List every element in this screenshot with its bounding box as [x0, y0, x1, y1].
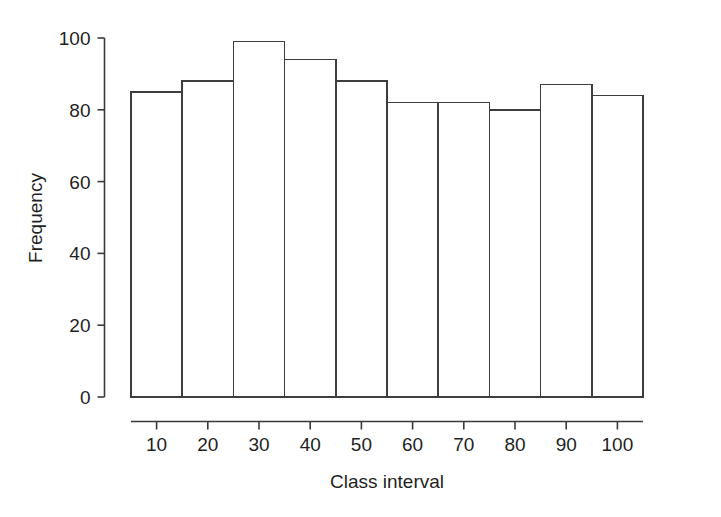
x-tick-label: 50 [351, 434, 372, 455]
x-tick-label: 70 [453, 434, 474, 455]
x-tick-label: 20 [197, 434, 218, 455]
x-tick-label: 40 [300, 434, 321, 455]
y-tick-label: 20 [69, 315, 90, 336]
bar [131, 92, 182, 397]
x-tick-label: 100 [602, 434, 634, 455]
x-tick-label: 60 [402, 434, 423, 455]
y-tick-label: 60 [69, 172, 90, 193]
y-axis-title: Frequency [25, 173, 46, 263]
bar [489, 110, 540, 397]
chart-figure: 020406080100 Frequency 10203040506070809… [0, 0, 721, 517]
bar [541, 85, 592, 397]
bar [285, 60, 336, 397]
x-tick-label: 10 [146, 434, 167, 455]
x-tick-label: 30 [248, 434, 269, 455]
y-tick-label: 0 [80, 387, 91, 408]
y-tick-label: 40 [69, 243, 90, 264]
bar [336, 81, 387, 397]
bar [438, 103, 489, 397]
bar [592, 95, 643, 397]
x-axis-title: Class interval [330, 471, 444, 492]
y-tick-label: 80 [69, 100, 90, 121]
bars-group [131, 42, 643, 397]
y-tick-label: 100 [59, 28, 91, 49]
histogram-chart: 020406080100 Frequency 10203040506070809… [0, 0, 721, 517]
x-tick-label: 80 [504, 434, 525, 455]
bar [233, 42, 284, 397]
bar [182, 81, 233, 397]
x-tick-label: 90 [556, 434, 577, 455]
bar [387, 103, 438, 397]
